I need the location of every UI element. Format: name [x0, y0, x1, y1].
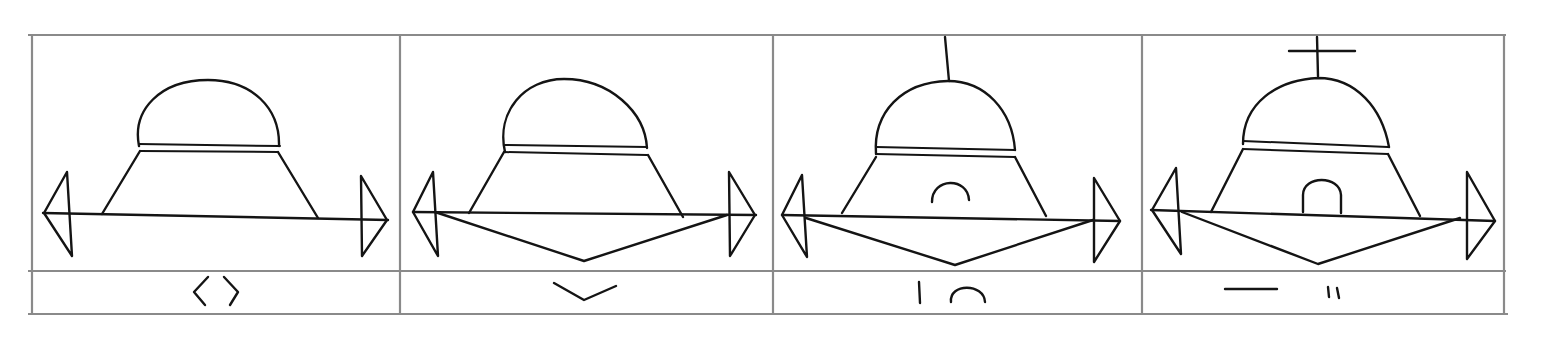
- band-top-line: [139, 144, 280, 146]
- band-bottom-line: [140, 151, 278, 152]
- right-arrowhead-icon: [1467, 172, 1495, 259]
- stroke-2-icon: [1337, 288, 1339, 298]
- base-left-edge: [102, 151, 140, 214]
- panel-3-figure: [782, 37, 1120, 265]
- band-top-line: [876, 147, 1015, 150]
- base-right-edge: [1015, 157, 1046, 216]
- panel-1-caption: [194, 277, 238, 305]
- mast-icon: [945, 37, 949, 81]
- horizontal-axis: [413, 212, 756, 215]
- dome-icon: [876, 81, 1015, 154]
- doorway-icon: [1303, 180, 1341, 213]
- right-arrowhead-icon: [361, 176, 387, 256]
- diagram-canvas: 〈 〉 ⌄ | ∩ — ıı: [0, 0, 1542, 343]
- panel-1-figure: [43, 80, 388, 256]
- v-keel-icon: [806, 218, 1093, 265]
- arch-icon: [932, 183, 969, 202]
- band-bottom-line: [504, 152, 647, 155]
- cross-vertical-stroke: [1317, 37, 1318, 76]
- base-left-edge: [1211, 149, 1243, 212]
- stroke-1-icon: [1328, 287, 1329, 297]
- dome-icon: [1243, 78, 1389, 147]
- panel-3-caption: [919, 282, 985, 303]
- left-arrowhead-icon: [413, 172, 438, 256]
- panel-4-caption: [1225, 287, 1339, 298]
- base-left-edge: [469, 152, 504, 213]
- horizontal-axis: [43, 213, 388, 220]
- v-keel-icon: [435, 212, 727, 261]
- vertical-bar-icon: [919, 282, 920, 303]
- small-arch-icon: [951, 288, 985, 302]
- band-bottom-line: [1243, 149, 1388, 154]
- v-mark-icon: [554, 283, 616, 300]
- band-top-line: [505, 145, 647, 147]
- panel-2-caption: [554, 283, 616, 300]
- base-left-edge: [842, 157, 876, 213]
- panel-4-figure: [1151, 37, 1495, 264]
- horizontal-axis: [782, 215, 1120, 221]
- band-bottom-line: [876, 154, 1015, 157]
- base-right-edge: [1388, 154, 1420, 216]
- panel-2-figure: [413, 79, 756, 261]
- right-angle-bracket-icon: [224, 277, 238, 305]
- table-grid: [28, 35, 1508, 314]
- left-angle-bracket-icon: [194, 277, 208, 305]
- dome-icon: [503, 79, 647, 152]
- base-right-edge: [278, 152, 318, 218]
- v-keel-icon: [1182, 212, 1460, 264]
- base-right-edge: [648, 155, 683, 217]
- dome-icon: [138, 80, 279, 146]
- band-top-line: [1243, 141, 1388, 147]
